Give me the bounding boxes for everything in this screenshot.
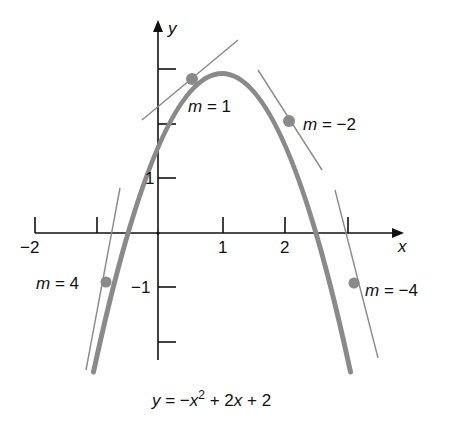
- parabola-tangent-diagram: y x −2 1 2 1 −1 m = 1 m = −2 m = 4 m = −…: [0, 0, 451, 424]
- x-axis-label: x: [397, 237, 407, 256]
- origin-dot: [156, 231, 159, 234]
- tangent-lines: [86, 40, 378, 370]
- y-axis-arrow-icon: [153, 20, 163, 32]
- point-m1: [186, 73, 198, 85]
- slope-label-m1: m = 1: [188, 97, 231, 116]
- x-tick-label-1: 1: [218, 238, 227, 257]
- y-axis-label: y: [167, 19, 178, 38]
- x-tick-label-2: 2: [280, 238, 289, 257]
- y-ticks: [158, 69, 176, 342]
- point-m4: [101, 277, 112, 288]
- x-tick-label-neg2: −2: [20, 238, 39, 257]
- slope-label-m-neg4: m = −4: [365, 281, 418, 300]
- axes: [35, 30, 395, 360]
- slope-label-m-neg2: m = −2: [303, 115, 356, 134]
- point-m-neg2: [283, 115, 295, 127]
- equation-caption: y = −x2 + 2x + 2: [151, 388, 271, 410]
- y-tick-label-1: 1: [145, 169, 154, 188]
- x-ticks: [35, 217, 348, 233]
- slope-label-m4: m = 4: [36, 274, 79, 293]
- point-m-neg4: [349, 278, 360, 289]
- y-tick-label-neg1: −1: [131, 278, 150, 297]
